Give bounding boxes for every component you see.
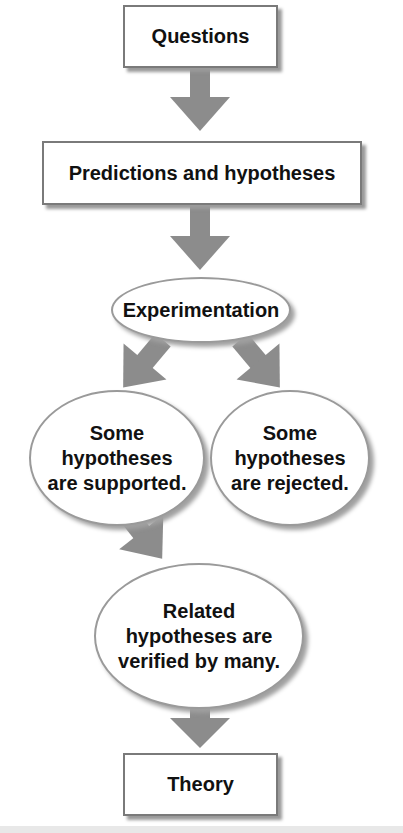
node-rejected: Some hypotheses are rejected.: [210, 390, 370, 526]
node-supported: Some hypotheses are supported.: [29, 390, 205, 526]
node-predictions: Predictions and hypotheses: [42, 141, 362, 205]
node-experimentation: Experimentation: [111, 277, 291, 343]
node-theory-label: Theory: [167, 773, 234, 796]
node-questions: Questions: [123, 5, 278, 68]
node-related-label: Related hypotheses are verified by many.: [118, 599, 280, 674]
arrow-questions-to-predictions: [170, 67, 230, 131]
node-predictions-label: Predictions and hypotheses: [69, 162, 336, 185]
node-questions-label: Questions: [152, 25, 250, 48]
node-experimentation-label: Experimentation: [123, 298, 280, 323]
node-rejected-label: Some hypotheses are rejected.: [231, 421, 349, 496]
node-theory: Theory: [123, 753, 278, 816]
bottom-edge-strip: [0, 826, 403, 833]
node-related: Related hypotheses are verified by many.: [94, 563, 304, 709]
arrow-related-to-theory: [170, 706, 230, 748]
arrow-predictions-to-experimentation: [170, 204, 230, 270]
node-supported-label: Some hypotheses are supported.: [48, 421, 187, 496]
